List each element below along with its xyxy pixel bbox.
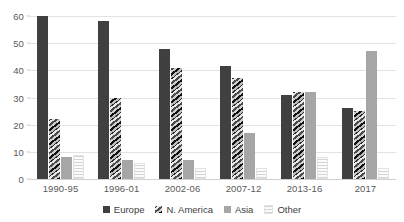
legend-swatch-icon xyxy=(224,206,231,213)
bar-n-america-2017 xyxy=(354,111,365,179)
bar-other-1996-01 xyxy=(134,163,145,179)
bar-asia-1996-01 xyxy=(122,160,133,179)
bar-group xyxy=(213,16,274,179)
bar-group xyxy=(91,16,152,179)
x-tick-label: 2017 xyxy=(335,179,396,199)
bar-europe-2007-12 xyxy=(220,66,231,179)
bar-other-2013-16 xyxy=(317,157,328,179)
y-tick-label: 10 xyxy=(13,146,24,157)
plot-area xyxy=(30,16,396,179)
legend-label: N. America xyxy=(166,204,212,215)
bar-europe-1996-01 xyxy=(98,21,109,179)
legend-label: Europe xyxy=(114,204,145,215)
bar-n-america-2002-06 xyxy=(171,68,182,179)
bar-groups xyxy=(30,16,396,179)
bar-n-america-1996-01 xyxy=(110,98,121,180)
x-tick-label: 1996-01 xyxy=(91,179,152,199)
bar-group xyxy=(30,16,91,179)
bar-asia-2013-16 xyxy=(305,92,316,179)
bar-other-2017 xyxy=(378,168,389,179)
x-axis: 1990-951996-012002-062007-122013-162017 xyxy=(30,179,396,199)
bar-n-america-2007-12 xyxy=(232,78,243,179)
bar-europe-2002-06 xyxy=(159,49,170,179)
legend-item-asia[interactable]: Asia xyxy=(224,204,253,215)
legend-swatch-icon xyxy=(155,206,162,213)
legend-swatch-icon xyxy=(103,206,110,213)
bar-group xyxy=(274,16,335,179)
legend-item-n-america[interactable]: N. America xyxy=(155,204,212,215)
y-tick-label: 40 xyxy=(13,65,24,76)
legend-label: Asia xyxy=(235,204,253,215)
legend-item-europe[interactable]: Europe xyxy=(103,204,145,215)
legend-swatch-icon xyxy=(264,205,273,214)
x-tick-label: 2002-06 xyxy=(152,179,213,199)
y-tick-label: 60 xyxy=(13,11,24,22)
bar-asia-2007-12 xyxy=(244,133,255,179)
y-tick-label: 50 xyxy=(13,38,24,49)
bar-other-1990-95 xyxy=(73,155,84,179)
bar-group xyxy=(335,16,396,179)
bar-n-america-2013-16 xyxy=(293,92,304,179)
bar-other-2007-12 xyxy=(256,168,267,179)
bar-other-2002-06 xyxy=(195,168,206,179)
y-tick-label: 20 xyxy=(13,119,24,130)
bar-asia-1990-95 xyxy=(61,157,72,179)
bar-n-america-1990-95 xyxy=(49,119,60,179)
bar-asia-2002-06 xyxy=(183,160,194,179)
y-tick-label: 30 xyxy=(13,92,24,103)
legend-label: Other xyxy=(277,204,301,215)
y-tick-label: 0 xyxy=(19,174,24,185)
bar-europe-1990-95 xyxy=(37,16,48,179)
bar-europe-2017 xyxy=(342,108,353,179)
bar-chart: 6050403020100 1990-951996-012002-062007-… xyxy=(0,0,404,222)
x-tick-label: 2007-12 xyxy=(213,179,274,199)
y-axis: 6050403020100 xyxy=(0,16,30,179)
bar-europe-2013-16 xyxy=(281,95,292,179)
legend-item-other[interactable]: Other xyxy=(264,204,301,215)
bar-group xyxy=(152,16,213,179)
x-tick-label: 2013-16 xyxy=(274,179,335,199)
bar-asia-2017 xyxy=(366,51,377,179)
legend: EuropeN. AmericaAsiaOther xyxy=(0,199,404,219)
x-tick-label: 1990-95 xyxy=(30,179,91,199)
